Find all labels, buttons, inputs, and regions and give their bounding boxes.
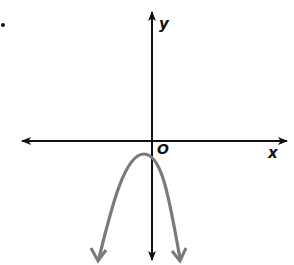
x-axis-label: x [267,144,279,162]
parabola-curve [99,154,180,258]
origin-label: O [157,141,169,157]
parabola-graph: y x O [0,0,294,265]
y-axis-label: y [159,15,170,33]
item-marker-dot [1,23,5,27]
